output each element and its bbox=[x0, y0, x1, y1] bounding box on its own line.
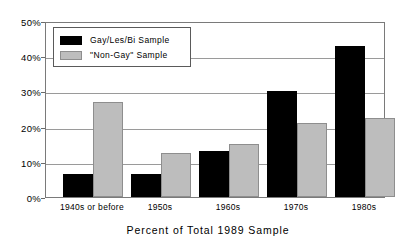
y-tick-label-0: 0% bbox=[0, 193, 41, 204]
x-tick-label-1980s: 1980s bbox=[352, 202, 377, 212]
bar-nongay-1970s bbox=[297, 123, 327, 197]
legend-label-gaylesbi: Gay/Les/Bi Sample bbox=[90, 35, 170, 45]
y-tick-label-30: 30% bbox=[0, 87, 41, 98]
bar-gaylesbi-1950s bbox=[131, 174, 161, 197]
bar-gaylesbi-1940s bbox=[63, 174, 93, 197]
y-tick-label-20: 20% bbox=[0, 122, 41, 133]
bar-nongay-1980s bbox=[365, 118, 395, 197]
bar-gaylesbi-1980s bbox=[335, 46, 365, 197]
legend-item-nongay: "Non-Gay" Sample bbox=[60, 48, 184, 62]
bar-gaylesbi-1960s bbox=[199, 151, 229, 197]
y-tick-label-40: 40% bbox=[0, 52, 41, 63]
x-axis-title: Percent of Total 1989 Sample bbox=[0, 224, 416, 236]
legend-label-nongay: "Non-Gay" Sample bbox=[90, 50, 168, 60]
legend-swatch-black-icon bbox=[60, 36, 82, 45]
bar-nongay-1950s bbox=[161, 153, 191, 197]
gridline-30 bbox=[46, 93, 384, 94]
bar-chart: 0% 10% 20% 30% 40% 50% bbox=[0, 0, 416, 248]
bar-nongay-1960s bbox=[229, 144, 259, 197]
x-tick-label-1950s: 1950s bbox=[148, 202, 173, 212]
legend-item-gaylesbi: Gay/Les/Bi Sample bbox=[60, 33, 184, 47]
x-tick-label-1960s: 1960s bbox=[216, 202, 241, 212]
legend-swatch-gray-icon bbox=[60, 51, 82, 60]
chart-legend: Gay/Les/Bi Sample "Non-Gay" Sample bbox=[53, 27, 191, 67]
y-tick-label-10: 10% bbox=[0, 157, 41, 168]
x-tick-label-1940s: 1940s or before bbox=[60, 202, 124, 212]
x-tick-label-1970s: 1970s bbox=[284, 202, 309, 212]
bar-nongay-1940s bbox=[93, 102, 123, 197]
y-tick-mark-0 bbox=[41, 198, 45, 199]
y-tick-label-50: 50% bbox=[0, 17, 41, 28]
bar-gaylesbi-1970s bbox=[267, 91, 297, 197]
